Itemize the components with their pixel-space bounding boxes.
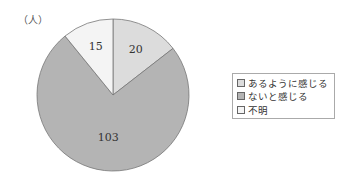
legend-label: ないと感じる: [248, 89, 308, 103]
slice-label: 15: [89, 40, 103, 53]
legend-swatch-icon: [237, 92, 245, 100]
slice-label: 103: [98, 131, 119, 144]
legend: あるように感じる ないと感じる 不明: [232, 73, 335, 119]
legend-item: あるように感じる: [237, 76, 330, 90]
legend-label: あるように感じる: [248, 76, 328, 90]
legend-swatch-icon: [237, 79, 245, 87]
legend-item: 不明: [237, 103, 330, 117]
slice-label: 20: [129, 43, 143, 56]
legend-swatch-icon: [237, 106, 245, 114]
legend-label: 不明: [248, 103, 268, 117]
legend-item: ないと感じる: [237, 90, 330, 104]
